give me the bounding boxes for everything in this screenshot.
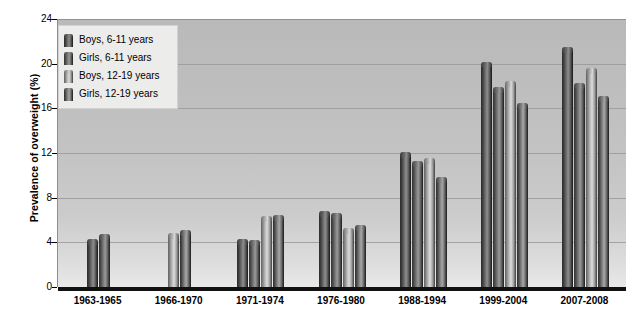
bar-1988-1994-girls-6-11-years [412, 161, 423, 287]
x-tick-label-1999-2004: 1999-2004 [479, 295, 527, 306]
bar-cap [574, 83, 585, 89]
legend-swatch-cap [64, 52, 73, 56]
bar-1988-1994-girls-12-19-years [436, 177, 447, 287]
chart-legend: Boys, 6-11 yearsGirls, 6-11 yearsBoys, 1… [58, 25, 178, 109]
bar-cap [261, 216, 272, 222]
bar-cap [249, 240, 260, 246]
bar-cap [180, 230, 191, 236]
bar-cap [481, 62, 492, 68]
y-tick-mark-0 [52, 287, 57, 288]
legend-swatch-boys-6-11 [64, 34, 73, 47]
bar-cap [273, 215, 284, 221]
bar-1976-1980-girls-12-19-years [355, 225, 366, 287]
bar-cap [598, 96, 609, 102]
legend-label-1: Girls, 6-11 years [79, 53, 152, 63]
legend-swatch-boys-12-19 [64, 70, 73, 83]
y-tick-label-0: 0 [0, 282, 52, 292]
y-tick-label-24: 24 [0, 14, 52, 24]
bar-1963-1965-boys-6-11-years [87, 239, 98, 287]
x-tick-label-2007-2008: 2007-2008 [561, 295, 609, 306]
bar-1971-1974-girls-12-19-years [273, 215, 284, 287]
bar-cap [87, 239, 98, 245]
x-tick-label-1963-1965: 1963-1965 [74, 295, 122, 306]
bar-cap [237, 239, 248, 245]
legend-item-3: Girls, 12-19 years [64, 85, 171, 103]
bar-cap [424, 158, 435, 164]
bar-cap [355, 225, 366, 231]
bar-2007-2008-girls-12-19-years [598, 96, 609, 287]
bar-cap [168, 233, 179, 239]
legend-swatch-girls-6-11 [64, 52, 73, 65]
x-tick-label-1971-1974: 1971-1974 [236, 295, 284, 306]
bar-cap [412, 161, 423, 167]
bar-1966-1970-boys-12-19-years [168, 233, 179, 287]
bar-1971-1974-boys-6-11-years [237, 239, 248, 287]
bar-cap [436, 177, 447, 183]
bar-1988-1994-boys-6-11-years [400, 152, 411, 287]
bar-1963-1965-girls-6-11-years [99, 234, 110, 287]
bar-1999-2004-girls-12-19-years [517, 103, 528, 287]
x-tick-label-1966-1970: 1966-1970 [155, 295, 203, 306]
bar-cap [517, 103, 528, 109]
gridline-12 [58, 153, 626, 154]
bar-2007-2008-boys-6-11-years [562, 47, 573, 287]
bar-1976-1980-girls-6-11-years [331, 213, 342, 287]
legend-swatch-cap [64, 34, 73, 38]
legend-label-2: Boys, 12-19 years [79, 71, 160, 81]
y-tick-label-8: 8 [0, 193, 52, 203]
bar-1988-1994-boys-12-19-years [424, 158, 435, 287]
bar-1999-2004-girls-6-11-years [493, 87, 504, 287]
bar-cap [331, 213, 342, 219]
legend-swatch-cap [64, 88, 73, 92]
bar-cap [586, 68, 597, 74]
legend-label-0: Boys, 6-11 years [79, 35, 153, 45]
gridline-24 [58, 19, 626, 20]
y-tick-label-16: 16 [0, 103, 52, 113]
legend-item-1: Girls, 6-11 years [64, 49, 171, 67]
x-tick-label-1988-1994: 1988-1994 [398, 295, 446, 306]
bar-cap [99, 234, 110, 240]
bar-cap [343, 228, 354, 234]
bar-1999-2004-boys-12-19-years [505, 81, 516, 287]
bar-chart-figure: Prevalence of overweight (%) 04812162024… [0, 0, 637, 316]
y-tick-label-12: 12 [0, 148, 52, 158]
bar-1971-1974-girls-6-11-years [249, 240, 260, 287]
bar-cap [400, 152, 411, 158]
legend-item-2: Boys, 12-19 years [64, 67, 171, 85]
x-tick-label-1976-1980: 1976-1980 [317, 295, 365, 306]
legend-item-0: Boys, 6-11 years [64, 31, 171, 49]
bar-1976-1980-boys-12-19-years [343, 228, 354, 287]
legend-swatch-cap [64, 70, 73, 74]
bar-2007-2008-boys-12-19-years [586, 68, 597, 287]
bar-1976-1980-boys-6-11-years [319, 211, 330, 287]
gridline-8 [58, 198, 626, 199]
bar-1999-2004-boys-6-11-years [481, 62, 492, 287]
bar-1966-1970-girls-12-19-years [180, 230, 191, 287]
bar-1971-1974-boys-12-19-years [261, 216, 272, 287]
bar-2007-2008-girls-6-11-years [574, 83, 585, 287]
y-tick-label-20: 20 [0, 59, 52, 69]
bar-cap [562, 47, 573, 53]
bar-cap [493, 87, 504, 93]
legend-swatch-girls-12-19 [64, 88, 73, 101]
bar-cap [319, 211, 330, 217]
legend-label-3: Girls, 12-19 years [79, 89, 158, 99]
y-tick-label-4: 4 [0, 237, 52, 247]
bar-cap [505, 81, 516, 87]
